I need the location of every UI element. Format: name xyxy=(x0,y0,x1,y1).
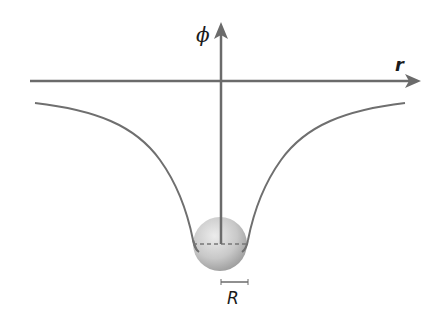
x-axis-label: r xyxy=(395,54,405,75)
radius-label: R xyxy=(227,288,239,308)
y-axis-label: ϕ xyxy=(196,23,210,47)
potential-well-diagram: ϕ r R xyxy=(0,0,440,309)
